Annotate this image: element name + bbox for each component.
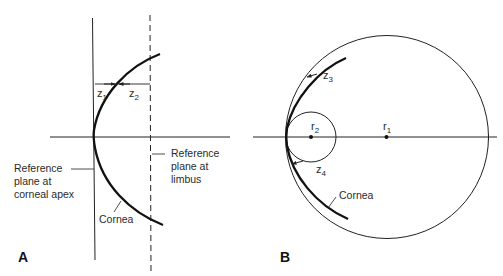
- label-reference-plane-apex: Reference plane at corneal apex: [14, 162, 74, 201]
- center-r1-dot: [385, 135, 389, 139]
- label-cornea-a: Cornea: [99, 213, 133, 226]
- panel-a-graphic: [50, 15, 230, 272]
- label-reference-plane-limbus: Reference plane at limbus: [171, 147, 219, 186]
- panel-label-b: B: [280, 249, 290, 265]
- label-z2: z2: [129, 87, 139, 102]
- center-r2-dot: [309, 135, 313, 139]
- z4-arrow: [292, 161, 303, 164]
- label-cornea-b: Cornea: [339, 189, 373, 202]
- label-r1: r1: [383, 120, 391, 135]
- z3-arrow: [307, 74, 317, 77]
- label-z3: z3: [323, 69, 333, 84]
- leader-cornea-a: [114, 201, 121, 212]
- label-r2: r2: [311, 120, 319, 135]
- cornea-curve-a: [94, 54, 163, 225]
- label-z4: z4: [316, 163, 326, 178]
- leader-cornea-b: [328, 197, 336, 208]
- reference-plane-limbus: [150, 15, 151, 272]
- panel-b-graphic: [253, 36, 497, 239]
- diagram-canvas: [0, 0, 503, 276]
- panel-label-a: A: [18, 249, 28, 265]
- label-z1: z1: [97, 87, 107, 102]
